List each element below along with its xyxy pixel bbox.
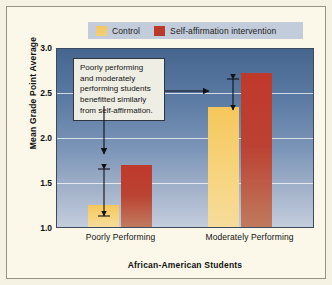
category-label-poorly-performing: Poorly Performing [56,232,185,242]
y-tick-1-0: 1.0 [26,223,52,233]
bar-poorly-performing-self-affirmation [121,165,152,227]
legend-item-self-affirmation: Self-affirmation intervention [154,26,276,36]
legend-label-control: Control [112,26,140,36]
category-label-moderately-performing: Moderately Performing [185,232,314,242]
y-tick-2-0: 2.0 [26,133,52,143]
y-tick-1-5: 1.5 [26,178,52,188]
annotation-line-1: Poorly performing [80,63,159,74]
x-axis-title: African-American Students [56,260,314,270]
gridline-2-0 [57,138,313,139]
legend-swatch-self-affirmation-icon [154,26,165,36]
chart-figure: Control Self-affirmation intervention Me… [0,0,332,285]
annotation-line-2: and moderately [80,74,159,85]
legend-item-control: Control [96,26,140,36]
legend-swatch-control-icon [96,26,107,36]
legend-label-self-affirmation: Self-affirmation intervention [170,26,276,36]
annotation-line-3: performing students [80,84,159,95]
bar-poorly-performing-control [88,205,119,227]
y-axis-tick-labels: 3.0 2.5 2.0 1.5 1.0 [22,0,52,285]
chart-legend: Control Self-affirmation intervention [88,22,303,39]
gridline-1-5 [57,183,313,184]
annotation-callout: Poorly performing and moderately perform… [73,58,165,121]
y-tick-3-0: 3.0 [26,43,52,53]
y-tick-2-5: 2.5 [26,88,52,98]
annotation-line-5: from self-affirmation. [80,106,159,117]
bar-moderately-performing-control [208,107,239,227]
bar-moderately-performing-self-affirmation [241,73,272,227]
annotation-line-4: benefitted similarly [80,95,159,106]
